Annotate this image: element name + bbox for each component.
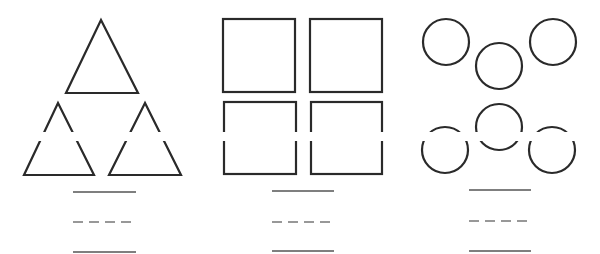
- triangle-group: [24, 20, 181, 175]
- triangle-shape-1: [66, 20, 138, 93]
- circle-group: [422, 19, 576, 173]
- square-group: [223, 19, 382, 174]
- circle-shape-4: [476, 104, 522, 150]
- square-shape-2: [310, 19, 382, 92]
- circle-shape-1: [423, 19, 469, 65]
- circle-shape-3: [530, 19, 576, 65]
- scan-gap-band: [0, 132, 600, 141]
- square-shape-1: [223, 19, 295, 92]
- square-answer-lines: [272, 191, 334, 251]
- circle-shape-2: [476, 43, 522, 89]
- worksheet-canvas: [0, 0, 600, 254]
- counting-worksheet: [0, 0, 600, 254]
- circle-answer-lines: [469, 190, 531, 251]
- triangle-answer-lines: [73, 192, 136, 252]
